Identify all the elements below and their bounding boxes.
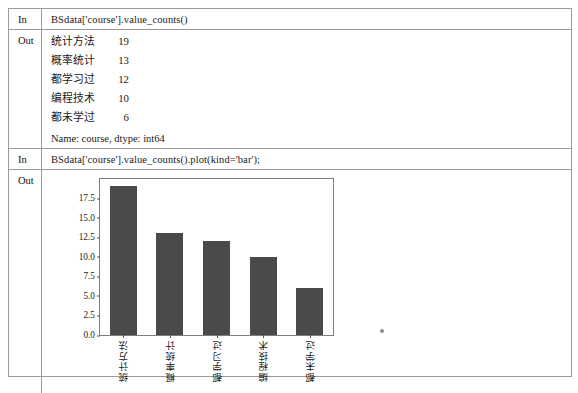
series-dtype-footer: Name: course, dtype: int64: [51, 130, 571, 145]
x-axis-tick-label: 都学习过: [210, 340, 223, 382]
list-item: 都未学过 6: [51, 111, 571, 130]
scan-artifact-speck: [380, 329, 384, 333]
list-item: 都学习过 12: [51, 73, 571, 92]
series-value: 19: [107, 35, 129, 48]
y-axis-tick-label: 2.5: [83, 309, 100, 322]
code-cell-1[interactable]: BSdata['course'].value_counts(): [42, 9, 571, 29]
series-value: 10: [107, 92, 129, 105]
bar: [250, 257, 277, 335]
bar: [203, 241, 230, 335]
cell-label-in-2: In: [9, 149, 42, 169]
x-axis-tick-label: 都未学过: [303, 340, 316, 382]
x-axis-tick-label: 统计方法: [117, 340, 130, 382]
bar: [110, 186, 137, 335]
y-axis-tick-label: 12.5: [79, 231, 100, 244]
notebook-row-out-1: Out 统计方法 19 概率统计 13 都学习过 12 编程技术 10: [9, 30, 571, 149]
list-item: 编程技术 10: [51, 92, 571, 111]
code-line: BSdata['course'].value_counts(): [51, 13, 571, 26]
output-cell-series: 统计方法 19 概率统计 13 都学习过 12 编程技术 10 都未学过: [42, 30, 571, 148]
series-key: 编程技术: [51, 92, 107, 105]
bar: [156, 233, 183, 335]
bar-chart: 0.02.55.07.510.012.515.017.5统计方法概率统计都学习过…: [67, 178, 337, 393]
series-key: 都学习过: [51, 73, 107, 86]
y-axis-tick-label: 17.5: [79, 192, 100, 205]
y-axis-tick-label: 5.0: [83, 289, 100, 302]
notebook-row-in-2: In BSdata['course'].value_counts().plot(…: [9, 149, 571, 170]
bar: [296, 288, 323, 335]
x-axis-tick-mark: [263, 335, 264, 338]
code-cell-2[interactable]: BSdata['course'].value_counts().plot(kin…: [42, 149, 571, 169]
plot-area: 0.02.55.07.510.012.515.017.5统计方法概率统计都学习过…: [99, 178, 334, 336]
x-axis-tick-mark: [123, 335, 124, 338]
notebook-table: In BSdata['course'].value_counts() Out 统…: [8, 8, 572, 377]
series-key: 统计方法: [51, 35, 107, 48]
series-value: 13: [107, 54, 129, 67]
list-item: 概率统计 13: [51, 54, 571, 73]
notebook-row-out-2: Out 0.02.55.07.510.012.515.017.5统计方法概率统计…: [9, 170, 571, 393]
series-value: 12: [107, 73, 129, 86]
series-value: 6: [107, 111, 129, 124]
y-axis-tick-label: 0.0: [83, 329, 100, 342]
y-axis-tick-label: 10.0: [79, 250, 100, 263]
y-axis-tick-label: 15.0: [79, 211, 100, 224]
x-axis-tick-mark: [217, 335, 218, 338]
cell-label-out-1: Out: [9, 30, 42, 148]
code-line: BSdata['course'].value_counts().plot(kin…: [51, 153, 571, 166]
x-axis-tick-label: 编程技术: [257, 340, 270, 382]
x-axis-tick-mark: [170, 335, 171, 338]
x-axis-tick-mark: [310, 335, 311, 338]
list-item: 统计方法 19: [51, 35, 571, 54]
series-key: 概率统计: [51, 54, 107, 67]
output-cell-chart: 0.02.55.07.510.012.515.017.5统计方法概率统计都学习过…: [42, 170, 571, 393]
y-axis-tick-label: 7.5: [83, 270, 100, 283]
cell-label-in-1: In: [9, 9, 42, 29]
series-key: 都未学过: [51, 111, 107, 124]
notebook-row-in-1: In BSdata['course'].value_counts(): [9, 9, 571, 30]
value-counts-list: 统计方法 19 概率统计 13 都学习过 12 编程技术 10 都未学过: [51, 34, 571, 130]
cell-label-out-2: Out: [9, 170, 42, 393]
x-axis-tick-label: 概率统计: [163, 340, 176, 382]
